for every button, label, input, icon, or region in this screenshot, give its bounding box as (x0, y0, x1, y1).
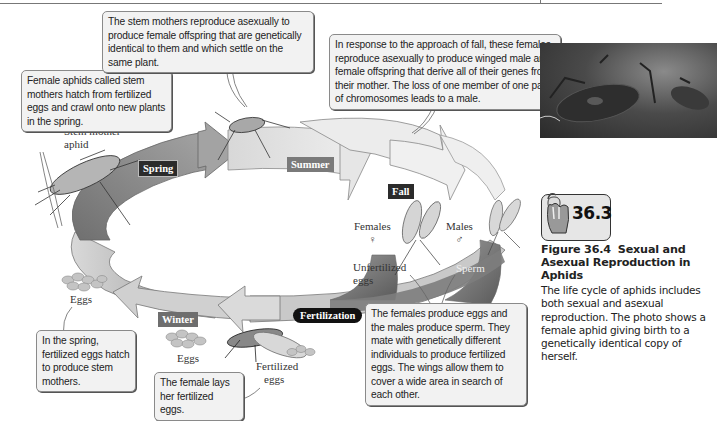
male-symbol: ♂ (446, 233, 473, 246)
season-label-winter: Winter (158, 312, 198, 327)
egg-laying-aphid-illustration (225, 325, 309, 363)
figure-caption: The life cycle of aphids includes both s… (541, 284, 717, 364)
callout-stem-mothers-reproduce: The stem mothers reproduce asexually to … (102, 11, 314, 73)
callout-mating: The females produce eggs and the males p… (365, 303, 527, 406)
eggs-cluster-winter (166, 330, 206, 348)
media-badge[interactable]: 36.3 (541, 194, 611, 241)
label-eggs-winter: Eggs (177, 352, 199, 365)
callout-fall-response: In response to the approach of fall, the… (329, 34, 561, 110)
label-eggs-left: Eggs (70, 293, 92, 306)
aphid-birth-photo (540, 43, 717, 138)
label-males: Males ♂ (446, 220, 473, 246)
eggs-cluster-left (62, 273, 107, 291)
figure-number: Figure 36.4 (541, 243, 611, 256)
hand-mouse-icon (544, 189, 572, 239)
callout-stem-mothers-hatch: Female aphids called stem mothers hatch … (21, 70, 172, 132)
label-fertilized-eggs: Fertilized eggs (256, 360, 298, 386)
badge-number: 36.3 (572, 203, 612, 223)
callout-spring-hatch: In the spring, fertilized eggs hatch to … (36, 330, 136, 392)
figure-title: Figure 36.4Sexual and Asexual Reproducti… (541, 243, 717, 282)
label-females: Females ♀ (354, 220, 391, 246)
label-unfertilized-eggs: Unfertilized eggs (353, 261, 406, 287)
callout-lays-eggs: The female lays her fertilized eggs. (154, 372, 244, 421)
season-label-spring: Spring (138, 160, 178, 177)
season-label-fertilization: Fertilization (293, 308, 362, 323)
label-sperm: Sperm (456, 262, 485, 275)
female-symbol: ♀ (354, 233, 391, 246)
aphid-photo-illustration (540, 43, 717, 138)
season-label-summer: Summer (287, 157, 334, 172)
season-label-fall: Fall (388, 184, 414, 199)
